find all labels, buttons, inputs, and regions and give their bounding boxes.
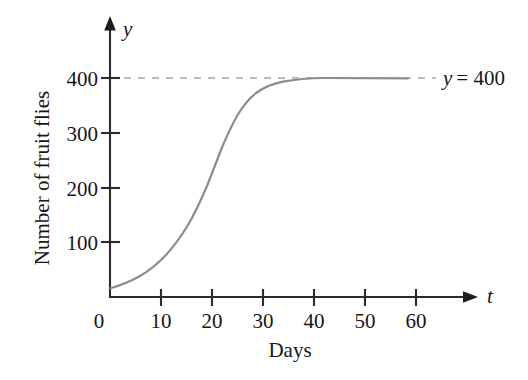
x-axis-title: Days <box>268 338 311 362</box>
x-tick-label-10: 10 <box>151 309 172 333</box>
y-axis-variable-label: y <box>121 17 133 41</box>
asymptote-label: y= 400 <box>441 66 505 90</box>
origin-label: 0 <box>94 309 105 333</box>
y-axis-title: Number of fruit flies <box>30 91 54 265</box>
fruit-fly-population-chart: y t 0 400 300 200 100 10 20 30 40 50 60 … <box>0 0 528 380</box>
x-tick-label-20: 20 <box>202 309 223 333</box>
y-tick-label-200: 200 <box>67 177 99 201</box>
x-tick-label-40: 40 <box>304 309 325 333</box>
x-tick-label-30: 30 <box>253 309 274 333</box>
y-tick-label-100: 100 <box>67 231 99 255</box>
x-tick-label-50: 50 <box>355 309 376 333</box>
y-tick-label-400: 400 <box>67 67 99 91</box>
asymptote-label-variable: y <box>441 66 453 90</box>
x-tick-label-60: 60 <box>406 309 427 333</box>
asymptote-label-equation: = 400 <box>456 66 505 90</box>
y-tick-label-300: 300 <box>67 122 99 146</box>
